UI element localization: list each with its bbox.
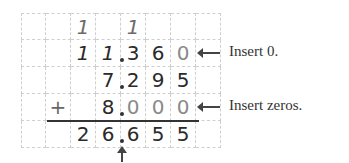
grid-cell: [46, 40, 71, 67]
grid-cell: [46, 121, 71, 148]
grid-cell: [196, 13, 221, 40]
addend-digit: 5: [171, 67, 196, 94]
arrow-left-icon: [202, 52, 220, 54]
addend-digit: 9: [146, 67, 171, 94]
grid-cell: [21, 121, 46, 148]
plus-sign: +: [46, 94, 71, 121]
grid-cell: [146, 13, 171, 40]
inserted-zero: 0: [171, 40, 196, 67]
inserted-zero: 0: [171, 94, 196, 121]
grid-cell: [46, 67, 71, 94]
sum-digit: 2: [71, 121, 96, 148]
decimal-point: [120, 58, 124, 62]
addend-digit: 3: [121, 40, 146, 67]
grid-cell: [171, 13, 196, 40]
sum-digit: 6: [96, 121, 121, 148]
grid-cell: [196, 67, 221, 94]
insert-zeros-note: Insert zeros.: [229, 97, 302, 114]
grid-cell: [21, 13, 46, 40]
sum-digit: 5: [146, 121, 171, 148]
sum-rule: [47, 120, 199, 122]
addend-digit: 6: [146, 40, 171, 67]
grid-cell: [21, 94, 46, 121]
grid-cell: [21, 67, 46, 94]
grid-cell: [71, 94, 96, 121]
sum-digit: 5: [171, 121, 196, 148]
insert-zero-note: Insert 0.: [229, 43, 278, 60]
grid-cell: [196, 121, 221, 148]
addend-digit: 7: [96, 67, 121, 94]
decimal-point: [120, 139, 124, 143]
decimal-point: [120, 112, 124, 116]
grid-cell: [21, 40, 46, 67]
arrow-left-icon: [202, 106, 220, 108]
arrow-up-icon: [121, 152, 123, 162]
carry-digit: 1: [121, 13, 146, 40]
sum-digit: 6: [121, 121, 146, 148]
decimal-point: [120, 85, 124, 89]
inserted-zero: 0: [146, 94, 171, 121]
grid-cell: [71, 67, 96, 94]
grid-cell: [46, 13, 71, 40]
addend-digit: 1: [71, 40, 96, 67]
addend-digit: 8: [96, 94, 121, 121]
addend-digit: 2: [121, 67, 146, 94]
addend-digit: 1: [96, 40, 121, 67]
carry-digit: 1: [71, 13, 96, 40]
inserted-zero: 0: [121, 94, 146, 121]
grid-cell: [96, 13, 121, 40]
